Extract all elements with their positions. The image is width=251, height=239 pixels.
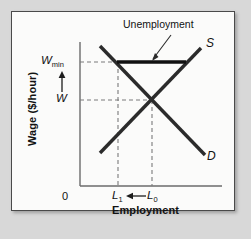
y-tick-label-wmin: Wmin	[41, 54, 64, 69]
y-axis-title: Wage ($/hour)	[26, 72, 38, 146]
supply-curve-label: S	[206, 36, 214, 50]
unemployment-annotation-arrow	[152, 35, 171, 61]
unemployment-annotation-label: Unemployment	[123, 18, 194, 30]
y-tick-wmin-sub: min	[52, 60, 64, 69]
y-tick-wmin-base: W	[41, 54, 52, 66]
wage-increase-arrow	[59, 71, 66, 92]
y-tick-label-w: W	[56, 92, 67, 104]
x-axis-title: Employment	[112, 204, 179, 216]
origin-label: 0	[62, 190, 68, 202]
x-tick-label-l1: L1	[112, 189, 123, 204]
x-tick-l1-sub: 1	[118, 195, 122, 204]
figure-root: Unemployment S D Wage ($/hour) Employmen…	[0, 0, 251, 239]
x-tick-l0-sub: 0	[153, 195, 157, 204]
employment-decrease-arrow	[126, 193, 146, 200]
x-tick-label-l0: L0	[147, 189, 158, 204]
demand-curve-label: D	[207, 149, 216, 163]
